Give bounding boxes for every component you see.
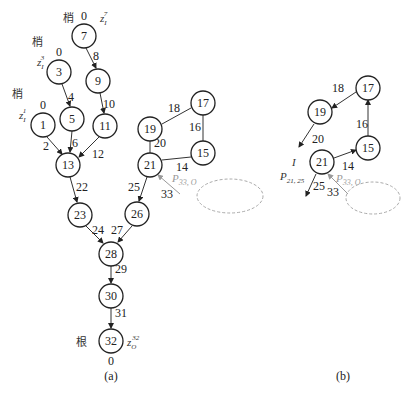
figure-a-nodes: 7 3 9 1 5 11 13 23 26 19 17 21 15 28 30 …	[31, 24, 215, 353]
edge-21-15	[334, 150, 356, 158]
svg-text:15: 15	[362, 141, 374, 155]
svg-text:17: 17	[362, 81, 374, 95]
diagram-canvas: 8 4 10 2 6 12 22 24 27 25 18 16 20 14 29…	[0, 0, 402, 396]
node-3: 3	[47, 60, 71, 84]
weight-label: 0	[56, 45, 62, 59]
z-label-1: zI1	[18, 107, 26, 124]
node-5: 5	[60, 107, 84, 131]
root-tag: 根	[76, 335, 87, 349]
node-15: 15	[191, 141, 215, 165]
node-30: 30	[99, 284, 123, 308]
node-9: 9	[86, 69, 110, 93]
node-b-15: 15	[356, 136, 380, 160]
weight-label: 0	[40, 98, 46, 112]
edge-label: 12	[92, 147, 104, 161]
edge-label: 8	[93, 49, 99, 63]
dashed-ellipse-b	[346, 182, 400, 214]
node-17: 17	[191, 91, 215, 115]
edge-label: 18	[332, 81, 344, 95]
edge-label: 16	[189, 120, 201, 134]
svg-text:21: 21	[316, 155, 328, 169]
node-b-19: 19	[308, 100, 332, 124]
svg-text:26: 26	[131, 207, 143, 221]
weight-label: 0	[81, 9, 87, 23]
node-26: 26	[125, 202, 149, 226]
svg-text:9: 9	[95, 74, 101, 88]
edge-label: 2	[43, 139, 49, 153]
z-label-3: zI3	[36, 54, 45, 71]
svg-text:1: 1	[40, 118, 46, 132]
z-label-7: zI7	[99, 10, 108, 27]
node-11: 11	[93, 114, 117, 138]
edge-label: 27	[111, 223, 123, 237]
edge-label: 25	[128, 180, 140, 194]
svg-text:17: 17	[197, 96, 209, 110]
edge-label: 33	[327, 185, 339, 199]
svg-text:15: 15	[197, 146, 209, 160]
edge-label: 31	[115, 306, 127, 320]
svg-text:28: 28	[105, 247, 117, 261]
caption-a: (a)	[104, 369, 117, 383]
svg-text:30: 30	[105, 289, 117, 303]
z-label-32: zO32	[126, 334, 140, 351]
p33-label: P33, O	[171, 172, 197, 187]
edge-label: 22	[76, 180, 88, 194]
edge-label: 20	[312, 132, 324, 146]
leaf-tag: 梢	[63, 11, 74, 25]
edge-label: 6	[72, 136, 78, 150]
node-23: 23	[68, 203, 92, 227]
leaf-tag: 梢	[32, 35, 43, 49]
edge-label: 18	[168, 101, 180, 115]
edge-21-26	[139, 177, 147, 201]
node-13: 13	[56, 153, 80, 177]
node-7: 7	[72, 24, 96, 48]
edge-label: 33	[161, 187, 173, 201]
p21-25-label: P21, 25	[279, 170, 305, 185]
i-label: I	[291, 156, 297, 168]
edge-label: 10	[103, 97, 115, 111]
svg-text:3: 3	[56, 65, 62, 79]
edge-1-13	[47, 137, 62, 154]
node-21: 21	[138, 153, 162, 177]
node-b-21: 21	[310, 150, 334, 174]
figure-a-edge-labels: 8 4 10 2 6 12 22 24 27 25 18 16 20 14 29…	[43, 49, 201, 320]
caption-b: (b)	[336, 369, 350, 383]
svg-text:32: 32	[105, 334, 117, 348]
edge-label: 25	[313, 179, 325, 193]
svg-text:19: 19	[144, 122, 156, 136]
svg-text:23: 23	[74, 208, 86, 222]
node-28: 28	[99, 242, 123, 266]
svg-text:5: 5	[69, 112, 75, 126]
svg-text:21: 21	[144, 158, 156, 172]
dashed-ellipse	[197, 179, 263, 213]
leaf-tag: 梢	[12, 87, 23, 101]
node-32: 32	[99, 329, 123, 353]
svg-text:7: 7	[81, 29, 87, 43]
svg-text:19: 19	[314, 105, 326, 119]
edge-label: 24	[92, 223, 104, 237]
edge-label: 4	[68, 90, 74, 104]
node-1: 1	[31, 113, 55, 137]
root-weight: 0	[108, 354, 114, 368]
edge-label: 14	[342, 159, 354, 173]
node-19: 19	[138, 117, 162, 141]
svg-text:11: 11	[99, 119, 111, 133]
node-b-17: 17	[356, 76, 380, 100]
edge-label: 16	[356, 117, 368, 131]
svg-text:13: 13	[62, 158, 74, 172]
